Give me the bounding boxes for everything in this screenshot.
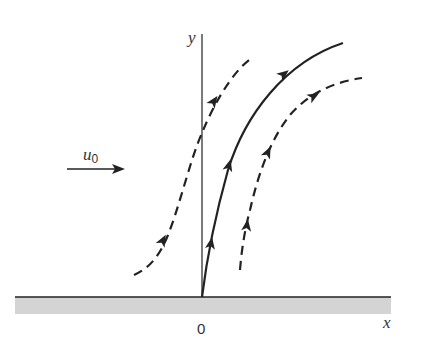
wall [15, 297, 391, 314]
y-axis-label: y [188, 28, 196, 48]
left-dashed-streamline [134, 60, 249, 275]
arrowhead-icon [156, 232, 170, 247]
origin-label: 0 [197, 320, 205, 337]
arrowhead-icon [261, 144, 275, 159]
x-axis-label: x [383, 313, 391, 333]
velocity-symbol: u [83, 145, 92, 164]
velocity-subscript: 0 [92, 152, 99, 166]
flow-direction-arrowheads [156, 66, 322, 249]
streamline-diagram [0, 0, 421, 352]
stagnation-solid-streamline [202, 43, 343, 297]
velocity-label: u0 [83, 145, 98, 166]
